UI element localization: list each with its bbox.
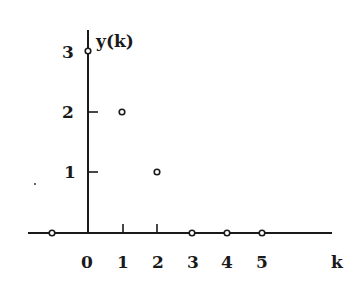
point-k3 [189,230,195,236]
y-tick-label-2: 2 [62,102,74,122]
x-tick-label-0: 0 [81,252,93,272]
y-axis-label: y(k) [95,31,134,51]
point-k2 [154,169,160,175]
x-axis-label: k [331,252,344,272]
x-tick-label-4: 4 [221,252,233,272]
x-tick-label-1: 1 [117,252,129,272]
y-tick-label-3: 3 [62,42,74,62]
x-tick-label-5: 5 [256,252,268,272]
y-tick-label-1: 1 [64,162,76,182]
x-tick-label-3: 3 [187,252,199,272]
point-k4 [224,230,230,236]
point-k0 [85,48,91,54]
point-k5 [259,230,265,236]
x-tick-label-2: 2 [152,252,164,272]
chart: 3 2 1 y(k) 0 1 2 3 4 5 k [0,0,353,291]
scan-speck [34,183,36,185]
point-k-minus1 [49,230,55,236]
data-points [49,48,265,236]
point-k1 [119,109,125,115]
